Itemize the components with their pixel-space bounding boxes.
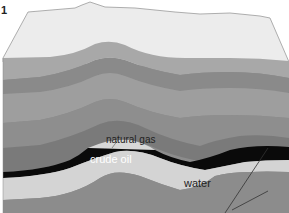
crude-oil-label: crude oil [90,153,132,165]
natural-gas-label: natural gas [106,134,155,145]
cross-section-diagram [0,0,289,213]
water-label: water [184,177,211,189]
